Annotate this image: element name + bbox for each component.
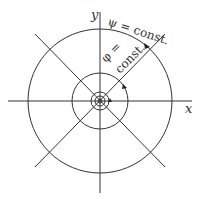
y-axis-label: y: [90, 7, 99, 22]
flow-net-diagram: y x ψ = const. φ = const.: [0, 0, 198, 199]
x-axis-label: x: [185, 101, 193, 116]
